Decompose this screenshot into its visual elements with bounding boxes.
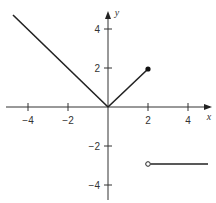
y-axis-label: y	[114, 7, 120, 18]
closed-endpoint-icon	[145, 66, 150, 71]
open-endpoint-icon	[146, 162, 151, 167]
graph-piece-2	[108, 69, 148, 107]
piecewise-graph: −4 −2 2 4 4 2 −2 −4 x y	[0, 0, 216, 203]
x-tick-label: −2	[62, 115, 74, 126]
x-tick-label: 4	[185, 115, 191, 126]
x-tick-label: −4	[22, 115, 34, 126]
y-tick-label: 2	[94, 63, 100, 74]
x-tick-label: 2	[145, 115, 151, 126]
y-tick-label: −2	[89, 141, 101, 152]
y-axis-arrow-icon	[105, 11, 111, 19]
y-tick-label: 4	[94, 24, 100, 35]
x-axis-label: x	[206, 111, 212, 122]
x-axis-arrow-icon	[204, 104, 212, 110]
y-tick-label: −4	[89, 180, 101, 191]
